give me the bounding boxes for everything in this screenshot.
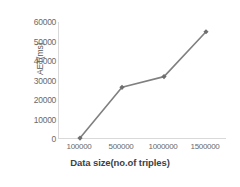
- plot-area: [58, 22, 226, 139]
- y-axis-tick-labels: 0100002000030000400005000060000: [24, 18, 56, 144]
- series-line-aet: [80, 32, 206, 138]
- x-axis-tick-label: 1500000: [190, 142, 219, 151]
- x-axis-tick-labels: 10000050000010000001500000: [58, 142, 236, 154]
- x-axis-title: Data size(no.of triples): [0, 157, 240, 168]
- x-axis-tick-label: 100000: [67, 142, 92, 151]
- y-axis-tick-label: 60000: [24, 17, 56, 27]
- y-axis-tick-label: 30000: [24, 76, 56, 86]
- y-axis-tick-label: 20000: [24, 95, 56, 105]
- line-chart-figure: AET(ms) 0100002000030000400005000060000 …: [0, 0, 240, 187]
- y-axis-tick-label: 50000: [24, 37, 56, 47]
- data-series-plot: [59, 22, 227, 139]
- x-axis-tick-label: 1000000: [148, 142, 177, 151]
- y-axis-tick-label: 40000: [24, 56, 56, 66]
- x-axis-tick-label: 500000: [109, 142, 134, 151]
- y-axis-tick-label: 0: [24, 134, 56, 144]
- series-markers: [77, 29, 208, 140]
- y-axis-tick-label: 10000: [24, 115, 56, 125]
